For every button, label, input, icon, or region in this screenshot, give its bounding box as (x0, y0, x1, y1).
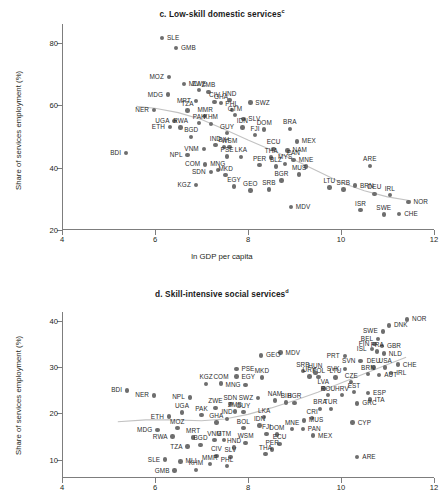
data-point (241, 426, 245, 430)
data-point-label: THA (265, 148, 278, 154)
data-point-label: TUR (324, 399, 337, 405)
data-point (125, 388, 129, 392)
x-tick-label: 12 (430, 483, 438, 492)
data-point-label: POL (312, 367, 325, 373)
data-point (214, 420, 218, 424)
data-point (355, 401, 359, 405)
data-point-label: SDN (192, 169, 206, 175)
x-tick-label: 6 (153, 483, 157, 492)
data-point-label: SLE (167, 35, 179, 41)
data-point-label: MDG (148, 91, 163, 97)
figure-panels-c-and-d: c. Low-skill domestic servicesc Share of… (0, 0, 444, 503)
data-point-label: BRA (283, 119, 296, 125)
data-point-label: IDN (237, 118, 248, 124)
data-point-label: GEO (266, 352, 281, 358)
data-point-label: CHE (403, 361, 417, 367)
y-tick-label: 10 (50, 455, 58, 464)
data-point (263, 452, 267, 456)
data-point-label: AUT (384, 372, 397, 378)
panel-c-x-axis-label: ln GDP per capita (0, 252, 444, 261)
data-point-label: BGR (287, 393, 301, 399)
data-point (248, 100, 252, 104)
data-point-label: MKD (255, 368, 270, 374)
data-point (194, 468, 198, 472)
data-point-label: TZA (181, 101, 193, 107)
data-point-label: RWA (153, 433, 168, 439)
data-point (233, 409, 237, 413)
data-point-label: LTU (329, 368, 341, 374)
data-point-label: NOR (413, 199, 428, 205)
data-point-label: DNK (394, 322, 408, 328)
data-point-label: ROU (321, 385, 336, 391)
data-point-label: TZA (170, 443, 182, 449)
data-point-label: NER (135, 107, 149, 113)
data-point (274, 164, 278, 168)
panel-c-trend-line (62, 24, 434, 230)
data-point-label: GHA (209, 413, 223, 419)
data-point-label: EGY (241, 373, 255, 379)
data-point (307, 374, 311, 378)
data-point-label: MDG (137, 427, 152, 433)
data-point-label: IRL (385, 185, 395, 191)
data-point (297, 172, 301, 176)
data-point (212, 100, 216, 104)
data-point (327, 185, 331, 189)
panel-c-y-axis-label: Share of services employment (%) (14, 71, 23, 190)
panel-c-title-text: c. Low-skill domestic services (159, 9, 281, 19)
data-point-label: MOZ (149, 74, 164, 80)
data-point (178, 459, 182, 463)
data-point (289, 205, 293, 209)
data-point-label: MMR (202, 454, 218, 460)
data-point (267, 187, 271, 191)
data-point-label: CZE (345, 372, 358, 378)
data-point-label: ARE (363, 156, 376, 162)
data-point-label: LKA (235, 147, 247, 153)
data-point-label: KHM (189, 460, 204, 466)
data-point (372, 192, 376, 196)
data-point-label: BGD (184, 127, 198, 133)
data-point-label: ZMB (202, 82, 216, 88)
data-point-label: BLZ (270, 157, 282, 163)
data-point-label: GMB (181, 45, 196, 51)
data-point (288, 127, 292, 131)
data-point-label: BDI (110, 150, 121, 156)
data-point-label: GRC (362, 400, 377, 406)
data-point (257, 163, 261, 167)
data-point-label: CYP (358, 419, 371, 425)
data-point-label: GTM (228, 105, 243, 111)
data-point (185, 444, 189, 448)
data-point (213, 143, 217, 147)
data-point (333, 375, 337, 379)
data-point-label: ISR (355, 200, 366, 206)
y-tick-label: 30 (50, 363, 58, 372)
data-point (166, 92, 170, 96)
panel-low-skill-domestic-services: c. Low-skill domestic servicesc Share of… (0, 0, 444, 262)
data-point (311, 433, 315, 437)
data-point-label: BOL (237, 418, 250, 424)
data-point-label: GMB (155, 467, 170, 473)
data-point-label: LTU (323, 178, 335, 184)
data-point-label: HND (222, 90, 236, 96)
data-point-label: GUY (220, 124, 234, 130)
data-point-label: UGA (175, 403, 189, 409)
data-point-label: VNM (184, 146, 199, 152)
data-point-label: BGD (193, 435, 207, 441)
data-point-label: SRB (337, 180, 350, 186)
y-tick-label: 80 (50, 38, 58, 47)
data-point (182, 82, 186, 86)
data-point-label: FJI (250, 125, 259, 131)
data-point-label: USA (378, 358, 391, 364)
data-point-label: NPL (172, 394, 185, 400)
data-point (353, 183, 357, 187)
x-tick-label: 8 (246, 235, 250, 244)
data-point-label: ETH (151, 413, 164, 419)
data-point-label: FRA (371, 342, 384, 348)
data-point (209, 170, 213, 174)
panel-d-title: d. Skill-intensive social servicesd (0, 288, 444, 299)
data-point (259, 353, 263, 357)
data-point (264, 432, 268, 436)
data-point-label: ETH (152, 123, 165, 129)
x-tick-label: 4 (60, 483, 64, 492)
data-point-label: ISL (357, 346, 367, 352)
panel-d-y-axis-label: Share of services employment (%) (14, 336, 23, 455)
